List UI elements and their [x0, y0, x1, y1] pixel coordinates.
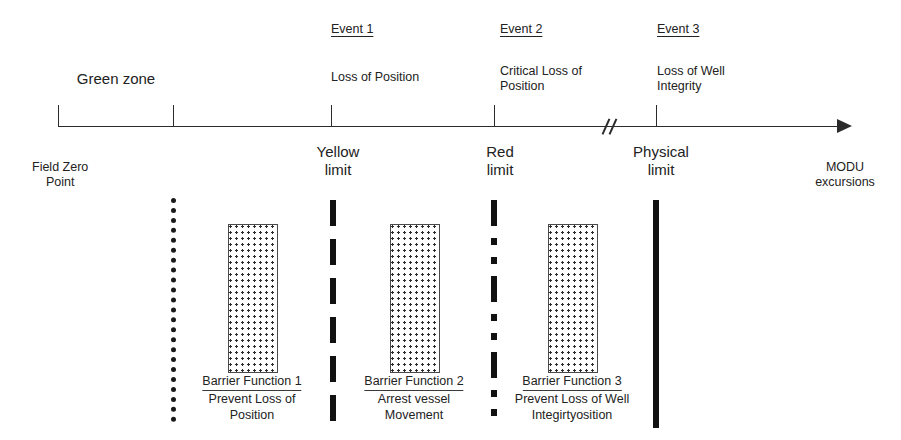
diagram-canvas: Event 1 Event 2 Event 3 Loss of Position… [0, 0, 901, 440]
barrier-3-caption: Barrier Function 3 Prevent Loss of Well … [515, 374, 629, 423]
barrier-1-description: Prevent Loss of Position [202, 392, 301, 423]
modu-excursions-label: MODU excursions [815, 160, 875, 190]
green-zone-label: Green zone [77, 70, 155, 88]
barrier-2-description: Arrest vessel Movement [364, 392, 463, 423]
event-2-description: Critical Loss of Position [500, 64, 582, 94]
axis-tick-physical-limit [656, 105, 657, 127]
event-3-description: Loss of Well Integrity [657, 64, 725, 94]
barrier-2-caption: Barrier Function 2 Arrest vessel Movemen… [364, 374, 463, 423]
zone-boundary-dotted-line [171, 198, 176, 422]
barrier-1-title: Barrier Function 1 [202, 374, 301, 391]
physical-limit-solid-line [653, 200, 659, 428]
barrier-2-box [390, 224, 440, 373]
red-limit-label: Red limit [486, 143, 514, 179]
yellow-limit-dashed-line [330, 200, 336, 422]
barrier-1-caption: Barrier Function 1 Prevent Loss of Posit… [202, 374, 301, 423]
event-1-title: Event 1 [331, 22, 373, 37]
barrier-3-box [548, 224, 598, 373]
event-2-title: Event 2 [500, 22, 542, 37]
axis-tick-yellow-limit [331, 105, 332, 127]
physical-limit-label: Physical limit [633, 143, 689, 179]
field-zero-point-label: Field Zero Point [32, 160, 88, 190]
barrier-2-title: Barrier Function 2 [364, 374, 463, 391]
event-1-description: Loss of Position [331, 70, 419, 85]
axis-tick-zone-boundary [173, 105, 174, 127]
barrier-3-description: Prevent Loss of Well Integirtyosition [515, 392, 629, 423]
barrier-1-box [228, 224, 278, 373]
timeline-axis [58, 126, 840, 127]
red-limit-dash-dot-line [491, 200, 497, 428]
event-3-title: Event 3 [657, 22, 699, 37]
axis-tick-red-limit [494, 105, 495, 127]
axis-tick-origin [58, 105, 59, 127]
yellow-limit-label: Yellow limit [317, 143, 360, 179]
barrier-3-title: Barrier Function 3 [522, 374, 621, 391]
axis-arrowhead [837, 119, 852, 133]
